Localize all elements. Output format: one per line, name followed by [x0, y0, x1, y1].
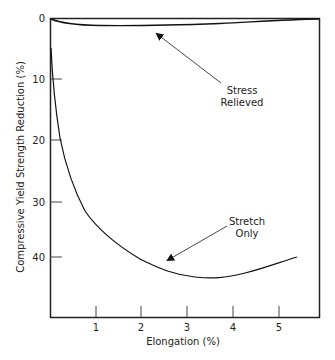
- y-tick-label-20: 20: [32, 135, 45, 146]
- x-tick-label-5: 5: [276, 322, 282, 333]
- chart-canvas: 0 10 20 30 40 1 2 3 4 5 Elongation (%) C…: [0, 0, 335, 360]
- x-tick-label-1: 1: [93, 322, 99, 333]
- stretch-only-arrow: [168, 226, 227, 260]
- series-stress-relieved: [51, 19, 319, 26]
- stress-relieved-arrow: [157, 34, 221, 83]
- x-axis-label: Elongation (%): [146, 336, 220, 347]
- y-axis-label: Compressive Yield Strength Reduction (%): [15, 61, 26, 273]
- y-tick-label-30: 30: [32, 197, 45, 208]
- plot-frame: [51, 19, 320, 318]
- annotation-stretch-line1: Stretch: [229, 216, 265, 227]
- annotation-stress-line1: Stress: [227, 85, 258, 96]
- annotation-stress-line2: Relieved: [221, 97, 264, 108]
- x-tick-label-3: 3: [184, 322, 190, 333]
- x-axis-ticks: [96, 306, 279, 317]
- series-stretch-only: [51, 48, 297, 278]
- annotation-stretch-line2: Only: [236, 228, 259, 239]
- y-tick-label-10: 10: [32, 74, 45, 85]
- x-tick-label-4: 4: [230, 322, 236, 333]
- x-tick-label-2: 2: [138, 322, 144, 333]
- y-tick-label-0: 0: [39, 13, 45, 24]
- y-tick-label-40: 40: [32, 252, 45, 263]
